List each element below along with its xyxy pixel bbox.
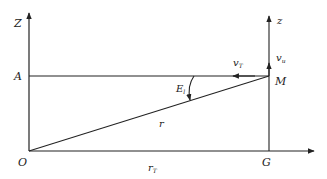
geometry-diagram: Z A O z M G vT vu El r rT: [0, 0, 327, 179]
label-vT: vT: [233, 57, 244, 69]
elevation-angle-arc: [189, 76, 194, 100]
label-G: G: [262, 156, 271, 169]
label-vu: vu: [276, 52, 286, 64]
label-A: A: [13, 70, 22, 83]
label-z: z: [276, 15, 283, 26]
label-rT: rT: [148, 162, 158, 174]
label-El: El: [175, 83, 185, 95]
label-r: r: [159, 118, 165, 129]
label-M: M: [274, 75, 287, 88]
line-O-M: [29, 76, 269, 151]
label-O: O: [18, 156, 27, 169]
label-Z: Z: [13, 17, 22, 30]
